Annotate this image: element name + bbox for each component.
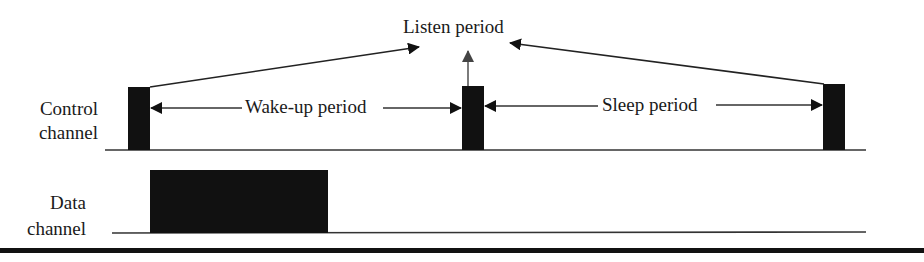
control-burst-1 — [128, 87, 150, 150]
control-burst-2 — [462, 86, 484, 150]
listen-pointer-arrow-3 — [510, 43, 824, 84]
duty-cycle-diagram: Listen period Control channel Wake-up pe… — [0, 0, 924, 262]
listen-pointer-arrow-1 — [150, 47, 419, 87]
data-transmission-block — [150, 170, 328, 233]
data-channel-label-line1: Data — [50, 192, 86, 214]
listen-period-label: Listen period — [403, 16, 504, 38]
data-channel-label-line2: channel — [27, 218, 86, 240]
control-channel-label-line2: channel — [39, 122, 98, 144]
wakeup-period-label: Wake-up period — [243, 96, 368, 118]
control-burst-3 — [823, 84, 845, 150]
diagram-canvas — [0, 0, 924, 262]
sleep-period-label: Sleep period — [600, 94, 700, 116]
bottom-divider-rule — [0, 248, 924, 253]
control-channel-label-line1: Control — [40, 98, 98, 120]
